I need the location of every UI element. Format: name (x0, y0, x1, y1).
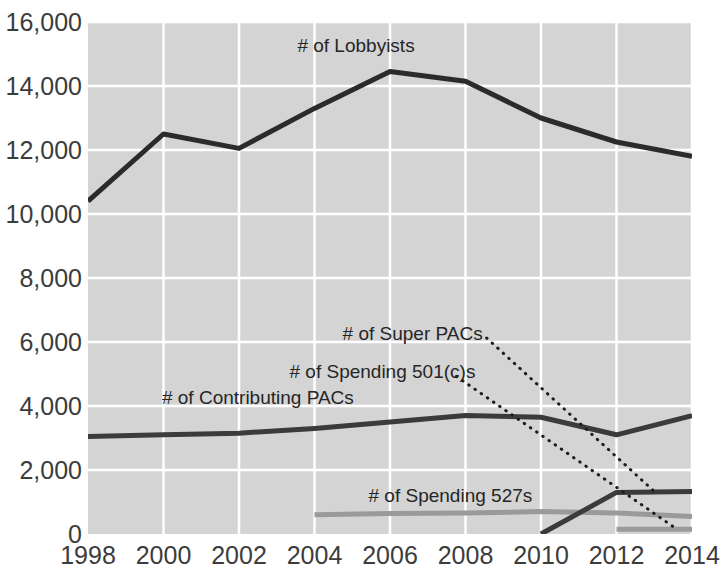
y-axis-tick-label: 12,000 (0, 136, 82, 165)
series-label: # of Contributing PACs (162, 387, 354, 409)
y-axis-tick-label: 6,000 (0, 328, 82, 357)
x-axis-tick-label: 2002 (211, 541, 267, 570)
chart-figure: 02,0004,0006,0008,00010,00012,00014,0001… (0, 0, 727, 581)
x-axis-tick-label: 2000 (136, 541, 192, 570)
y-axis-tick-label: 16,000 (0, 8, 82, 37)
x-axis-tick-label: 2010 (513, 541, 569, 570)
series-label: # of Spending 501(c)s (289, 361, 475, 383)
series-lines (88, 22, 692, 534)
y-axis-tick-label: 14,000 (0, 72, 82, 101)
y-axis: 02,0004,0006,0008,00010,00012,00014,0001… (0, 0, 88, 581)
series-line (88, 72, 692, 202)
y-axis-tick-label: 8,000 (0, 264, 82, 293)
plot-area (88, 22, 692, 534)
x-axis-tick-label: 2012 (589, 541, 645, 570)
x-axis-tick-label: 2006 (362, 541, 418, 570)
x-axis-tick-label: 2014 (664, 541, 720, 570)
y-axis-tick-label: 10,000 (0, 200, 82, 229)
x-axis-tick-label: 2004 (287, 541, 343, 570)
series-line (88, 416, 692, 437)
series-label: # of Super PACs (343, 323, 483, 345)
series-label: # of Lobbyists (297, 35, 414, 57)
y-axis-tick-label: 2,000 (0, 456, 82, 485)
y-axis-tick-label: 4,000 (0, 392, 82, 421)
x-axis-tick-label: 2008 (438, 541, 494, 570)
series-line (315, 512, 693, 517)
x-axis-tick-label: 1998 (60, 541, 116, 570)
series-label: # of Spending 527s (369, 485, 533, 507)
